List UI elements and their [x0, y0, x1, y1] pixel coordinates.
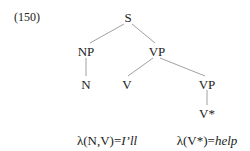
node-np: NP — [78, 45, 95, 58]
node-v: V — [122, 78, 131, 91]
node-n: N — [81, 78, 90, 91]
node-vp-low: VP — [199, 78, 216, 91]
annotation-left: λ(N,V)=I’ll — [77, 134, 137, 147]
example-number: (150) — [14, 10, 40, 25]
annotation-right: λ(V*)=help — [177, 134, 238, 147]
node-vp-top: VP — [149, 45, 166, 58]
node-s: S — [124, 11, 131, 24]
node-v-star: V* — [199, 107, 215, 120]
